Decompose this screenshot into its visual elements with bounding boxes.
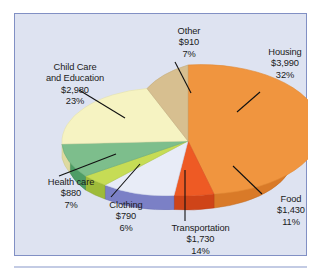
label-food-percent: 11% (258, 217, 321, 228)
label-childcare-value: $2,980 (23, 85, 127, 96)
label-housing-name: Housing (252, 47, 318, 58)
label-clothing-value: $790 (90, 211, 162, 222)
label-childcare-name-line2: and Education (23, 73, 127, 84)
pie-chart-panel: Other $910 7% Housing $3,990 32% Child C… (14, 13, 307, 256)
label-food-name: Food (258, 194, 321, 205)
label-childcare: Child Care and Education $2,980 23% (23, 62, 127, 107)
panel-bottom-rule (14, 266, 307, 268)
label-housing-value: $3,990 (252, 58, 318, 69)
label-housing: Housing $3,990 32% (252, 47, 318, 81)
label-other-name: Other (156, 26, 222, 37)
label-transportation: Transportation $1,730 14% (148, 223, 253, 257)
figure-root: Other $910 7% Housing $3,990 32% Child C… (0, 0, 321, 278)
label-transportation-value: $1,730 (148, 234, 253, 245)
label-other-value: $910 (156, 37, 222, 48)
label-healthcare-value: $880 (31, 188, 111, 199)
label-childcare-percent: 23% (23, 96, 127, 107)
label-other: Other $910 7% (156, 26, 222, 60)
label-childcare-name-line1: Child Care (23, 62, 127, 73)
label-transportation-name: Transportation (148, 223, 253, 234)
label-housing-percent: 32% (252, 70, 318, 81)
label-healthcare-name: Health care (31, 177, 111, 188)
label-other-percent: 7% (156, 49, 222, 60)
slice-housing (188, 65, 308, 194)
slice-side-food (174, 194, 214, 210)
label-food: Food $1,430 11% (258, 194, 321, 228)
label-transportation-percent: 14% (148, 246, 253, 257)
label-food-value: $1,430 (258, 205, 321, 216)
label-clothing-name: Clothing (90, 200, 162, 211)
